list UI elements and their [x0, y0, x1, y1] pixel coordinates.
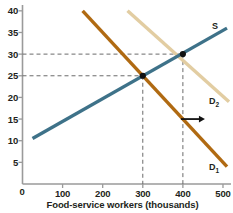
x-tick-label-origin: 0 [9, 186, 35, 197]
x-tick-label: 100 [50, 188, 76, 199]
y-tick-label: 5 [0, 157, 18, 168]
curve-label-demand2: D2 [209, 96, 219, 108]
y-tick-label: 10 [0, 135, 18, 146]
x-tick-label: 200 [90, 188, 116, 199]
shift-arrow-head [199, 116, 205, 123]
demand1-subscript: 1 [216, 167, 220, 174]
y-tick-label: 25 [0, 70, 18, 81]
guide-lines [23, 54, 183, 184]
equilibrium-point-e1 [140, 73, 146, 79]
y-tick-label: 15 [0, 114, 18, 125]
curve-label-supply: S [212, 21, 218, 31]
y-tick-label: 30 [0, 49, 18, 60]
y-tick-label: 35 [0, 27, 18, 38]
x-tick-label: 500 [210, 188, 233, 199]
demand2-subscript: 2 [216, 101, 220, 108]
x-tick-label: 400 [170, 188, 196, 199]
chart-figure: 510152025303540 100200300400500 0 Food-s… [0, 0, 233, 213]
axis-lines [23, 5, 232, 184]
x-tick-label: 300 [130, 188, 156, 199]
curve-label-demand1: D1 [209, 162, 219, 174]
curve-group [33, 11, 229, 167]
chart-canvas [0, 0, 233, 213]
y-tick-label: 40 [0, 5, 18, 16]
x-axis-title: Food-service workers (thousands) [6, 199, 233, 210]
curve-s [33, 28, 227, 138]
equilibrium-point-e2 [180, 51, 186, 57]
y-tick-label: 20 [0, 92, 18, 103]
